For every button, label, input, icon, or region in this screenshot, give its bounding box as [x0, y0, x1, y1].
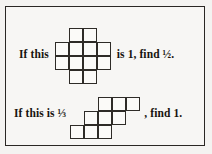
- problem-1-tail-text: is 1, find ½.: [117, 49, 175, 61]
- grid-cell: [69, 42, 83, 56]
- grid-cell: [84, 125, 98, 139]
- grid-cell: [97, 42, 111, 56]
- problem-2-tail-text: , find 1.: [144, 108, 182, 120]
- grid-cell: [69, 56, 83, 70]
- grid-cell: [98, 97, 112, 111]
- grid-cell: [69, 70, 83, 84]
- grid-cell: [55, 56, 69, 70]
- worksheet-page: If this is 1, find ½. If this is ⅓ , fin…: [0, 0, 212, 154]
- problem-frame: If this is 1, find ½. If this is ⅓ , fin…: [5, 6, 205, 146]
- grid-cell: [83, 56, 97, 70]
- problem-2-lead-text: If this is ⅓: [14, 108, 66, 120]
- grid-cell: [98, 125, 112, 139]
- problem-row-1: If this is 1, find ½.: [19, 27, 174, 83]
- grid-cell: [55, 42, 69, 56]
- grid-cell: [84, 111, 98, 125]
- grid-cell: [83, 28, 97, 42]
- grid-cell: [69, 28, 83, 42]
- problem-row-2: If this is ⅓ , find 1.: [14, 93, 182, 135]
- grid-cell: [97, 56, 111, 70]
- grid-cell: [70, 125, 84, 139]
- grid-cell: [98, 111, 112, 125]
- staircase-polyomino-figure: [70, 97, 140, 139]
- grid-cell: [112, 97, 126, 111]
- problem-1-lead-text: If this: [19, 49, 49, 61]
- grid-cell: [83, 70, 97, 84]
- grid-cell: [112, 111, 126, 125]
- grid-cell: [126, 97, 140, 111]
- cross-polyomino-figure: [55, 28, 111, 84]
- grid-cell: [83, 42, 97, 56]
